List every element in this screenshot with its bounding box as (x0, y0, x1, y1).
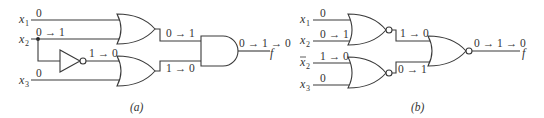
inverter-bubble (80, 58, 86, 64)
nor-gate-1 (348, 14, 386, 45)
nor-gate-final-bubble (466, 48, 472, 54)
svg-text:3: 3 (25, 80, 29, 89)
svg-text:1: 1 (306, 19, 310, 28)
final-output-value: 0 → 1 → 0 (474, 37, 526, 49)
input-x3-label-a: x3 (18, 73, 29, 89)
and-gate (201, 36, 238, 66)
or-gate-1 (117, 14, 155, 44)
or-gate-2 (117, 56, 155, 86)
or1-output-value: 0 → 1 (166, 27, 195, 39)
output-f-label-b: f (522, 46, 527, 60)
svg-text:x: x (18, 73, 25, 87)
caption-b: (b) (411, 101, 425, 114)
nor2-output-value: 0 → 1 (398, 63, 427, 75)
x2bar-value-b: 1 → 0 (320, 50, 349, 62)
input-x2-label-b: x2 (299, 33, 310, 49)
svg-text:x: x (18, 32, 25, 46)
nor-gate-final (428, 36, 466, 66)
and-output-value: 0 → 1 → 0 (239, 37, 291, 49)
or2-output-value: 1 → 0 (166, 62, 195, 74)
nor-gate-2 (348, 57, 386, 88)
svg-text:3: 3 (306, 84, 310, 93)
svg-text:2: 2 (306, 62, 310, 71)
panel-b: x1 x2 x2 x3 0 0 → 1 1 → 0 0 1 → 0 0 → (299, 7, 527, 114)
input-x1-label-b: x1 (299, 12, 310, 28)
svg-text:x: x (299, 12, 306, 26)
nor1-output-value: 1 → 0 (400, 27, 429, 39)
logic-circuit-figure: x1 x2 x3 0 0 → 1 0 1 → 0 0 → 1 1 → 0 (0, 0, 544, 118)
x2-value-a: 0 → 1 (36, 26, 65, 38)
nor-gate-2-bubble (386, 70, 392, 76)
nor-gate-1-bubble (386, 27, 392, 33)
input-x2-label-a: x2 (18, 32, 29, 48)
inverter-output-value: 1 → 0 (89, 47, 118, 59)
svg-text:x: x (299, 33, 306, 47)
caption-a: (a) (130, 101, 144, 114)
svg-text:1: 1 (25, 19, 29, 28)
x2-value-b: 0 → 1 (320, 28, 349, 40)
svg-text:2: 2 (25, 39, 29, 48)
not-gate (60, 50, 80, 72)
svg-text:x: x (299, 77, 306, 91)
x3-value-b: 0 (320, 72, 326, 84)
input-x1-label-a: x1 (18, 12, 29, 28)
input-x3-label-b: x3 (299, 77, 310, 93)
x1-value-b: 0 (320, 7, 326, 19)
input-x2-bar-label-b: x2 (299, 55, 310, 71)
panel-a: x1 x2 x3 0 0 → 1 0 1 → 0 0 → 1 1 → 0 (18, 7, 291, 114)
x1-value-a: 0 (36, 7, 42, 19)
wire-x2-to-inverter (38, 39, 60, 61)
svg-text:x: x (18, 12, 25, 26)
x3-value-a: 0 (36, 67, 42, 79)
svg-text:2: 2 (306, 40, 310, 49)
